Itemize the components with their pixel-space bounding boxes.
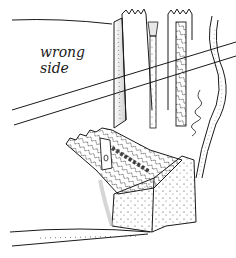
pinked-edge-left (122, 9, 146, 14)
pinked-edge-right (168, 9, 192, 14)
wrong-side-label: wrong side (40, 44, 85, 76)
garment-top-edge (12, 20, 112, 25)
thread-curl (191, 90, 201, 136)
wrong-side-label-line2: side (40, 60, 85, 76)
zipper-illustration (0, 0, 236, 258)
right-garment-edge (196, 16, 219, 178)
zipper-pull (100, 138, 112, 170)
bottom-strip (10, 229, 150, 246)
wrong-side-label-line1: wrong (40, 44, 85, 60)
